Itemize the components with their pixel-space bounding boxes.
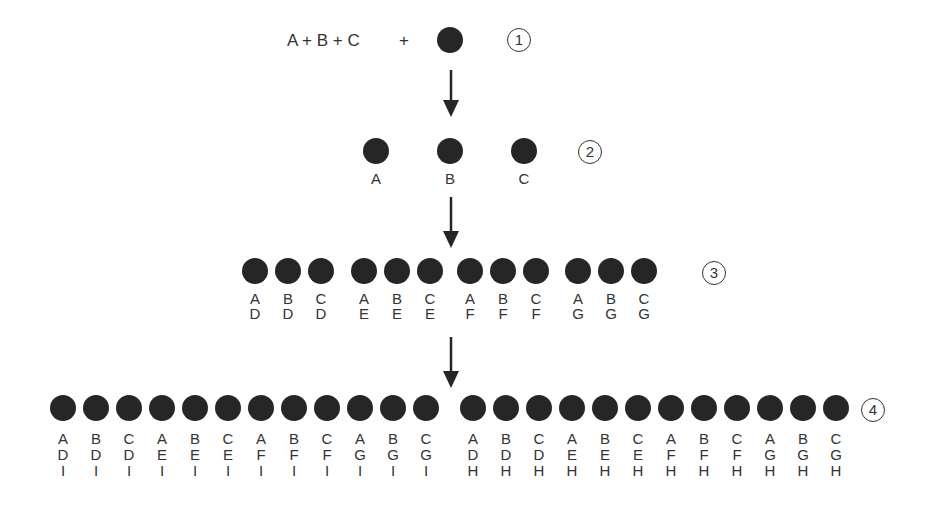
level-4-label: B xyxy=(493,432,519,446)
level-3-label: D xyxy=(275,307,301,321)
level-4-label: D xyxy=(526,448,552,462)
level-3-dot xyxy=(417,258,443,284)
level-3-dot xyxy=(384,258,410,284)
level-4-label: G xyxy=(380,448,406,462)
level-3-dot xyxy=(490,258,516,284)
formula-text: A + B + C xyxy=(287,31,360,51)
level-4-label: I xyxy=(314,464,340,478)
level-4-label: E xyxy=(625,448,651,462)
level-4-dot xyxy=(314,395,340,421)
level-4-label: H xyxy=(691,464,717,478)
level-4-dot xyxy=(460,395,486,421)
level-3-label: C xyxy=(631,292,657,306)
level-4-label: G xyxy=(413,448,439,462)
level-3-dot xyxy=(308,258,334,284)
level-4-label: A xyxy=(559,432,585,446)
level-3-label: A xyxy=(351,292,377,306)
level-4-dot xyxy=(347,395,373,421)
level-3-label: B xyxy=(275,292,301,306)
level-3-label: E xyxy=(351,307,377,321)
level-3-dot xyxy=(457,258,483,284)
level-4-label: I xyxy=(50,464,76,478)
level-3-label: B xyxy=(384,292,410,306)
step-2-badge: 2 xyxy=(578,140,602,164)
level-4-label: E xyxy=(149,448,175,462)
level-4-dot xyxy=(757,395,783,421)
level-3-label: C xyxy=(417,292,443,306)
level-4-dot xyxy=(149,395,175,421)
level-4-label: B xyxy=(691,432,717,446)
level-4-dot xyxy=(790,395,816,421)
level-4-dot xyxy=(658,395,684,421)
level-4-label: C xyxy=(314,432,340,446)
level-4-label: F xyxy=(724,448,750,462)
level-4-label: H xyxy=(757,464,783,478)
level-4-dot xyxy=(625,395,651,421)
step-1-badge: 1 xyxy=(507,28,531,52)
level-4-label: H xyxy=(493,464,519,478)
level-4-label: D xyxy=(493,448,519,462)
level-4-label: E xyxy=(215,448,241,462)
level-3-label: C xyxy=(308,292,334,306)
level-4-label: B xyxy=(83,432,109,446)
level-4-label: A xyxy=(149,432,175,446)
level-3-label: G xyxy=(565,307,591,321)
level-4-label: H xyxy=(460,464,486,478)
dot-b-label: B xyxy=(437,172,463,186)
level-4-label: H xyxy=(625,464,651,478)
level-4-dot xyxy=(116,395,142,421)
level-4-label: I xyxy=(182,464,208,478)
level-4-label: D xyxy=(50,448,76,462)
level-3-label: D xyxy=(242,307,268,321)
level-4-label: H xyxy=(559,464,585,478)
level-3-dot xyxy=(598,258,624,284)
level-4-dot xyxy=(724,395,750,421)
level-4-label: E xyxy=(559,448,585,462)
level-4-label: I xyxy=(215,464,241,478)
level-4-label: F xyxy=(314,448,340,462)
level-3-label: F xyxy=(523,307,549,321)
level-4-label: A xyxy=(658,432,684,446)
level-4-label: F xyxy=(691,448,717,462)
level-3-dot xyxy=(631,258,657,284)
level-4-dot xyxy=(83,395,109,421)
dot-c-label: C xyxy=(511,172,537,186)
level-4-label: H xyxy=(592,464,618,478)
level-3-label: E xyxy=(384,307,410,321)
level-4-label: F xyxy=(281,448,307,462)
level-4-label: H xyxy=(823,464,849,478)
level-4-label: I xyxy=(116,464,142,478)
level-4-dot xyxy=(380,395,406,421)
level-4-label: A xyxy=(248,432,274,446)
level-4-label: C xyxy=(526,432,552,446)
level-4-dot xyxy=(823,395,849,421)
level-4-label: I xyxy=(281,464,307,478)
level-4-dot xyxy=(215,395,241,421)
level-4-dot xyxy=(182,395,208,421)
level-4-label: I xyxy=(413,464,439,478)
level-4-label: A xyxy=(757,432,783,446)
step-3-badge: 3 xyxy=(702,261,726,285)
level-4-dot xyxy=(559,395,585,421)
level-4-label: I xyxy=(83,464,109,478)
level-3-label: F xyxy=(457,307,483,321)
level-3-dot xyxy=(275,258,301,284)
level-4-dot xyxy=(281,395,307,421)
level-4-label: D xyxy=(460,448,486,462)
level-3-dot xyxy=(242,258,268,284)
level-4-label: D xyxy=(83,448,109,462)
level-3-label: G xyxy=(598,307,624,321)
level-4-label: B xyxy=(790,432,816,446)
level-4-label: I xyxy=(347,464,373,478)
dot-c xyxy=(511,138,537,164)
level-4-label: A xyxy=(347,432,373,446)
level-4-dot xyxy=(50,395,76,421)
level-4-label: E xyxy=(592,448,618,462)
level-4-label: D xyxy=(116,448,142,462)
level-4-label: G xyxy=(823,448,849,462)
level-3-dot xyxy=(565,258,591,284)
level-4-label: C xyxy=(215,432,241,446)
dot-b xyxy=(437,138,463,164)
level-4-label: I xyxy=(248,464,274,478)
level-3-label: G xyxy=(631,307,657,321)
